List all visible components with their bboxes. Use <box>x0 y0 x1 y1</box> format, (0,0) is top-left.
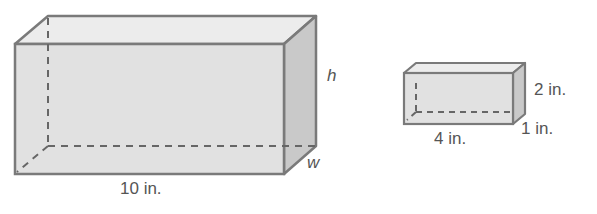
large-prism-length-label: 10 in. <box>120 179 162 199</box>
large-prism-front-face <box>15 44 284 174</box>
small-prism <box>404 63 525 124</box>
small-prism-top-face <box>404 63 525 73</box>
large-prism-height-label: h <box>327 66 336 86</box>
small-prism-height-label: 2 in. <box>534 80 566 100</box>
small-prism-width-label: 1 in. <box>521 119 553 139</box>
small-prism-length-label: 4 in. <box>434 129 466 149</box>
large-prism-top-face <box>15 16 316 44</box>
small-prism-front-face <box>404 73 513 124</box>
prisms-figure <box>0 0 597 214</box>
large-prism-width-label: w <box>307 153 319 173</box>
large-prism-side-face <box>284 16 316 174</box>
diagram-canvas: h w 10 in. 2 in. 1 in. 4 in. <box>0 0 597 214</box>
small-prism-side-face <box>513 63 525 124</box>
large-prism <box>15 16 316 174</box>
